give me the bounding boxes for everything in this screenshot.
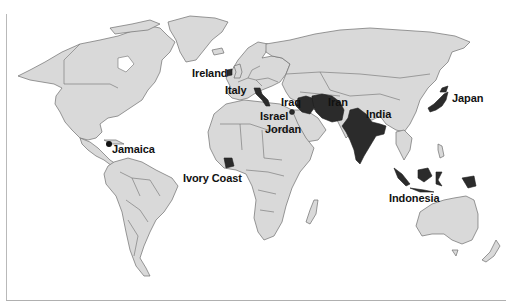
label-jordan: Jordan bbox=[265, 123, 301, 135]
label-iraq: Iraq bbox=[281, 96, 301, 108]
tasmania bbox=[452, 250, 458, 256]
label-ireland: Ireland bbox=[192, 67, 227, 79]
greenland bbox=[168, 16, 228, 62]
madagascar bbox=[306, 200, 318, 224]
label-jamaica: Jamaica bbox=[112, 143, 155, 155]
philippines bbox=[438, 144, 444, 158]
world-map bbox=[0, 0, 518, 303]
north-america bbox=[18, 26, 175, 140]
japan-north bbox=[440, 86, 448, 92]
new-zealand bbox=[482, 240, 500, 262]
label-italy: Italy bbox=[225, 84, 247, 96]
indonesia-sulawesi bbox=[436, 172, 442, 186]
indonesia-papua bbox=[462, 176, 476, 188]
iceland bbox=[212, 48, 224, 55]
label-israel: Israel bbox=[260, 110, 288, 122]
japan-shape bbox=[428, 92, 448, 112]
label-indonesia: Indonesia bbox=[389, 192, 439, 204]
south-america bbox=[104, 158, 178, 276]
ivory-coast-shape bbox=[224, 158, 234, 168]
indonesia-sumatra bbox=[394, 168, 410, 186]
label-japan: Japan bbox=[452, 92, 483, 104]
southeast-asia bbox=[396, 130, 412, 160]
label-ivory-coast: Ivory Coast bbox=[183, 172, 242, 184]
indonesia-borneo bbox=[418, 168, 432, 182]
israel-jordan-shape bbox=[290, 110, 295, 115]
ireland-shape bbox=[227, 69, 232, 76]
label-iran: Iran bbox=[328, 96, 348, 108]
label-india: India bbox=[366, 108, 391, 120]
